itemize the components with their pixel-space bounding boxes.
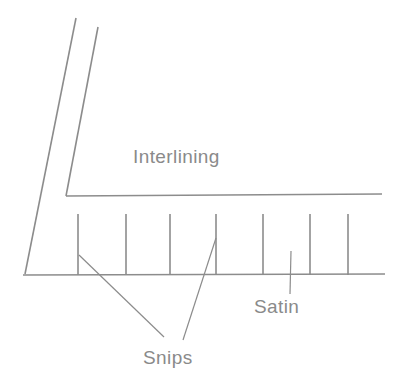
satin-snip-ticks-group — [78, 214, 348, 275]
diagram-lines-group — [23, 18, 385, 340]
interlining-horizontal-edge — [66, 194, 382, 196]
leader-line-snips-right — [183, 238, 216, 340]
interlining-outer-diagonal — [25, 18, 76, 274]
diagram-canvas: Interlining Satin Snips — [0, 0, 399, 380]
leader-line-satin — [290, 251, 291, 294]
interlining-label: Interlining — [133, 146, 220, 167]
satin-label: Satin — [254, 296, 299, 317]
leader-line-snips-left — [79, 255, 164, 337]
interlining-fold-diagonal — [66, 27, 98, 196]
sewing-corner-diagram: Interlining Satin Snips — [0, 0, 399, 380]
snips-label: Snips — [143, 347, 193, 368]
